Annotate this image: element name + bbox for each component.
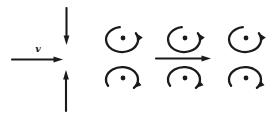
flow-diagram: v	[0, 0, 278, 119]
converging-arrows-group: v	[12, 8, 69, 111]
downward-arrow-icon	[64, 8, 70, 45]
upward-arrow-icon	[63, 70, 69, 111]
vortex-center-dot	[121, 36, 126, 41]
vortex-counterclockwise-icon	[229, 27, 266, 52]
vortex-clockwise-icon	[106, 67, 142, 88]
flow-direction-arrow-icon	[156, 56, 211, 62]
vortex-counterclockwise-icon	[106, 27, 143, 52]
vortex-clockwise-icon	[168, 67, 204, 88]
velocity-label: v	[35, 43, 41, 54]
vortex-center-dot	[244, 76, 249, 81]
vortex-center-dot	[244, 36, 249, 41]
vortex-center-dot	[121, 76, 126, 81]
flow-diagram-canvas: v	[0, 0, 278, 119]
vortex-center-dot	[183, 36, 188, 41]
vortex-center-dot	[183, 76, 188, 81]
vortex-clockwise-icon	[229, 67, 265, 88]
velocity-arrow-icon	[12, 57, 63, 63]
vortex-counterclockwise-icon	[168, 27, 205, 52]
